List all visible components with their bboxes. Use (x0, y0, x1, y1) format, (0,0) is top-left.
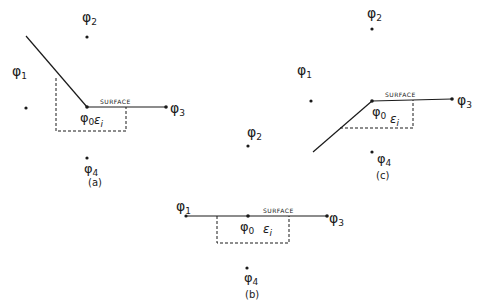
inclined-boundary-a (26, 36, 87, 107)
node-phi0-a (85, 105, 89, 109)
node-phi2-a (85, 35, 88, 38)
node-phi3-a (164, 105, 168, 109)
surface-label-a: SURFACE (100, 98, 131, 105)
label-phi1-c: φ1 (297, 62, 312, 80)
epsilon-label-a: εi (94, 113, 104, 129)
node-phi1-c (309, 99, 312, 102)
node-phi0-c (370, 99, 374, 103)
label-phi3-a: φ3 (170, 100, 185, 118)
node-phi4-c (370, 150, 373, 153)
label-phi2-a: φ2 (82, 9, 97, 27)
label-phi3-c: φ3 (457, 92, 472, 110)
diagram-a: φ2 φ1 φ0 φ3 φ4 SURFACE εi (a) (12, 9, 185, 188)
node-phi3-c (450, 97, 454, 101)
surface-label-c: SURFACE (385, 91, 416, 98)
label-phi1-b: φ1 (176, 198, 191, 216)
label-phi0-b: φ0 (240, 219, 255, 236)
node-phi2-b (246, 144, 249, 147)
node-phi2-c (370, 27, 373, 30)
label-phi4-b: φ4 (244, 270, 259, 287)
surface-line-c (372, 99, 452, 101)
node-phi1-a (24, 106, 27, 109)
label-phi2-b: φ2 (247, 124, 262, 142)
diagram-b: φ2 φ1 φ0 φ3 φ4 SURFACE εi (b) (176, 124, 344, 300)
node-phi0-b (246, 214, 250, 218)
node-phi4-a (85, 156, 88, 159)
caption-a: (a) (88, 177, 102, 188)
diagram-c: φ2 φ1 φ0 φ3 φ4 SURFACE εi (c) (297, 5, 472, 181)
surface-label-b: SURFACE (263, 207, 294, 214)
label-phi4-c: φ4 (377, 151, 392, 168)
label-phi1-a: φ1 (12, 63, 27, 81)
caption-b: (b) (245, 289, 259, 300)
inclined-boundary-c (313, 101, 372, 152)
label-phi0-c: φ0 (372, 104, 387, 121)
caption-c: (c) (376, 170, 389, 181)
label-phi3-b: φ3 (329, 210, 344, 228)
label-phi0-a: φ0 (80, 110, 95, 127)
label-phi4-a: φ4 (84, 161, 99, 178)
epsilon-label-c: εi (390, 112, 400, 128)
epsilon-label-b: εi (263, 222, 273, 238)
label-phi2-c: φ2 (367, 5, 382, 23)
